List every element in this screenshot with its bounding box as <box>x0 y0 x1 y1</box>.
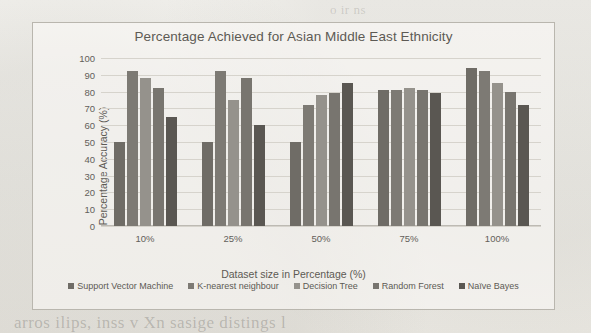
bar-group: 100% <box>466 58 529 226</box>
x-axis-tick-label: 100% <box>485 233 509 244</box>
bar <box>479 71 490 226</box>
y-axis-tick-label: 90 <box>84 69 95 80</box>
y-axis-tick-label: 100 <box>79 53 95 64</box>
plot-area: 1009080706050403020100 10%25%50%75%100% <box>101 58 541 226</box>
y-axis-tick-label: 40 <box>84 153 95 164</box>
bar <box>153 88 164 226</box>
bar <box>430 93 441 226</box>
bar-groups: 10%25%50%75%100% <box>101 58 541 226</box>
legend-swatch-icon <box>188 283 194 289</box>
bar <box>202 142 213 226</box>
chart-frame: Percentage Achieved for Asian Middle Eas… <box>32 22 555 310</box>
y-axis-tick-label: 10 <box>84 204 95 215</box>
legend-label: Support Vector Machine <box>77 281 173 291</box>
x-axis-tick-label: 10% <box>135 233 154 244</box>
bar <box>417 90 428 226</box>
bar <box>140 78 151 226</box>
y-axis-tick-label: 50 <box>84 137 95 148</box>
bar <box>303 105 314 226</box>
bar <box>114 142 125 226</box>
bar <box>290 142 301 226</box>
x-axis-tick-label: 50% <box>311 233 330 244</box>
bar <box>241 78 252 226</box>
bar <box>342 83 353 226</box>
legend-swatch-icon <box>68 283 74 289</box>
bar <box>391 90 402 226</box>
legend-item[interactable]: Naïve Bayes <box>459 281 519 291</box>
legend-swatch-icon <box>459 283 465 289</box>
bar <box>492 83 503 226</box>
y-axis-tick-label: 70 <box>84 103 95 114</box>
bar <box>329 93 340 226</box>
chart-title: Percentage Achieved for Asian Middle Eas… <box>33 29 554 44</box>
x-axis-tick-label: 25% <box>223 233 242 244</box>
bar-group: 75% <box>378 58 441 226</box>
bar <box>466 68 477 226</box>
scan-bleed-top: o ir ns <box>330 2 366 18</box>
y-axis-tick-label: 0 <box>90 221 95 232</box>
x-axis-title: Dataset size in Percentage (%) <box>33 268 554 280</box>
legend-swatch-icon <box>294 283 300 289</box>
bar <box>316 95 327 226</box>
legend-item[interactable]: K-nearest neighbour <box>188 281 279 291</box>
bar-group: 10% <box>114 58 177 226</box>
bar <box>505 92 516 226</box>
legend-item[interactable]: Decision Tree <box>294 281 358 291</box>
bar <box>254 125 265 226</box>
legend-label: Decision Tree <box>303 281 358 291</box>
bar <box>228 100 239 226</box>
bar <box>518 105 529 226</box>
legend-item[interactable]: Random Forest <box>373 281 444 291</box>
y-axis-tick-label: 60 <box>84 120 95 131</box>
bar-group: 50% <box>290 58 353 226</box>
legend: Support Vector MachineK-nearest neighbou… <box>33 281 554 291</box>
legend-item[interactable]: Support Vector Machine <box>68 281 173 291</box>
y-axis-tick-label: 30 <box>84 170 95 181</box>
gridline <box>101 226 541 227</box>
bar <box>404 88 415 226</box>
bar <box>215 71 226 226</box>
scan-bleed-bottom: arros ilips, inss v Xn sasige distings l <box>14 313 286 333</box>
bar <box>127 71 138 226</box>
y-axis-tick-label: 80 <box>84 86 95 97</box>
y-axis-tick-label: 20 <box>84 187 95 198</box>
legend-label: Random Forest <box>382 281 444 291</box>
legend-label: Naïve Bayes <box>468 281 519 291</box>
bar <box>166 117 177 226</box>
bar <box>378 90 389 226</box>
x-axis-tick-label: 75% <box>399 233 418 244</box>
legend-swatch-icon <box>373 283 379 289</box>
bar-group: 25% <box>202 58 265 226</box>
legend-label: K-nearest neighbour <box>197 281 279 291</box>
